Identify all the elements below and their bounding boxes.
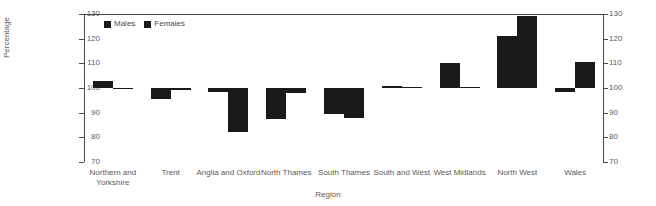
y-tick-right-100 — [603, 88, 608, 89]
bar-females — [575, 62, 595, 88]
legend-label: Males — [114, 20, 135, 28]
bar-males — [497, 36, 517, 88]
y-tick-right-70 — [603, 162, 608, 163]
bar-males — [555, 88, 575, 92]
bar-chart: Percentage 70708080909010010011011012012… — [0, 0, 656, 206]
bar-males — [324, 88, 344, 114]
y-axis-title-text: Percentage — [2, 17, 11, 58]
x-axis-title: Region — [0, 190, 656, 199]
legend-swatch-icon — [144, 21, 151, 28]
y-tick-label-right-130: 130 — [609, 10, 622, 18]
legend: Males Females — [104, 20, 185, 28]
baseline-100 — [84, 14, 604, 15]
category-label: Wales — [535, 168, 615, 178]
y-tick-right-130 — [603, 14, 608, 15]
y-tick-label-left-80: 80 — [76, 133, 100, 141]
bar-females — [228, 88, 248, 132]
y-tick-label-left-120: 120 — [76, 35, 100, 43]
bar-males — [208, 88, 228, 92]
bar-females — [460, 87, 480, 88]
bar-females — [171, 88, 191, 90]
y-tick-label-left-110: 110 — [76, 59, 100, 67]
bar-females — [402, 87, 422, 88]
y-tick-label-right-90: 90 — [609, 109, 618, 117]
bar-females — [286, 88, 306, 93]
legend-label: Females — [154, 20, 185, 28]
bar-males — [382, 86, 402, 88]
legend-swatch-icon — [104, 21, 111, 28]
bar-males — [151, 88, 171, 99]
y-axis-title: Percentage — [2, 17, 11, 58]
y-tick-label-right-100: 100 — [609, 84, 622, 92]
bar-males — [93, 81, 113, 88]
top-divider — [0, 0, 656, 1]
y-tick-right-110 — [603, 63, 608, 64]
y-tick-right-80 — [603, 137, 608, 138]
y-tick-label-right-110: 110 — [609, 59, 622, 67]
y-tick-label-right-80: 80 — [609, 133, 618, 141]
y-tick-right-90 — [603, 113, 608, 114]
y-tick-right-120 — [603, 39, 608, 40]
y-tick-label-right-120: 120 — [609, 35, 622, 43]
y-tick-label-left-70: 70 — [76, 158, 100, 166]
bar-males — [440, 63, 460, 88]
bar-males — [266, 88, 286, 119]
plot-area: 707080809090100100110110120120130130 — [84, 14, 604, 162]
y-tick-label-left-90: 90 — [76, 109, 100, 117]
bar-females — [344, 88, 364, 118]
y-tick-label-left-130: 130 — [76, 10, 100, 18]
bar-females — [113, 88, 133, 89]
legend-item-males: Males — [104, 20, 135, 28]
legend-item-females: Females — [144, 20, 185, 28]
y-tick-label-right-70: 70 — [609, 158, 618, 166]
bar-females — [517, 16, 537, 88]
